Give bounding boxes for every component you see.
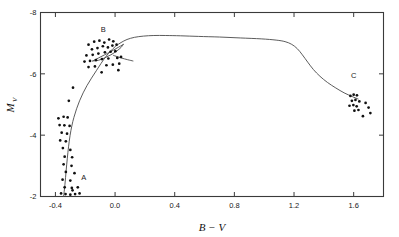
data-point [107,46,110,49]
data-point [107,57,110,60]
data-point [349,95,352,98]
data-point [352,93,355,96]
data-point [356,94,359,97]
data-point [62,115,65,118]
data-point [111,63,114,66]
y-tick-label: -2 [30,192,37,201]
data-point [66,132,69,135]
cluster-label-a: A [81,173,86,182]
data-point [63,186,66,189]
data-point [104,51,107,54]
cluster-label-b: B [101,25,106,34]
y-axis-tick-labels: -8-6-4-2 [30,8,37,201]
data-point [352,104,355,107]
y-tick-label: -4 [30,131,37,140]
data-point [71,189,74,192]
data-point [62,163,65,166]
data-point [85,54,88,57]
data-point [64,193,67,196]
data-point [362,115,365,118]
data-point [74,193,77,196]
data-point [97,52,100,55]
data-point [348,104,351,107]
y-axis-title: M [4,103,16,114]
x-tick-label: 0.8 [229,201,239,210]
data-point [72,86,75,89]
y-tick-label: -8 [30,8,37,17]
data-point [89,60,92,63]
x-tick-label: 1.2 [289,201,299,210]
data-point [358,100,361,103]
x-tick-label: 1.6 [348,201,358,210]
data-point [108,38,111,41]
data-point [357,109,360,112]
data-point [67,99,70,102]
data-point [87,66,90,69]
data-point [103,41,106,44]
data-point [369,112,372,115]
data-point [73,172,76,175]
data-point [109,50,112,53]
data-point [120,56,123,59]
data-point [114,50,117,53]
data-point [59,139,62,142]
data-point [69,179,72,182]
y-axis-title-subscript: V [11,97,19,102]
data-point [115,43,118,46]
y-axis-ticks [41,13,384,197]
data-point [116,57,119,60]
x-tick-label: 0.0 [110,201,120,210]
series-cluster-c [348,93,372,117]
y-tick-label: -6 [30,70,37,79]
data-points [57,38,372,196]
data-point [60,131,63,134]
data-point [58,124,61,127]
data-point [65,171,68,174]
data-point [70,187,73,190]
data-point [93,40,96,43]
data-point [353,109,356,112]
data-point [69,193,72,196]
data-point [101,45,104,48]
data-point [100,71,103,74]
data-point [78,192,81,195]
data-point [87,43,90,46]
data-point [83,60,86,63]
data-point [118,62,121,65]
data-point [355,105,358,108]
x-tick-label: -0.4 [49,201,62,210]
data-point [351,99,354,102]
data-point [68,125,71,128]
data-point [63,155,66,158]
data-point [66,116,69,119]
data-point [117,69,120,72]
data-point [71,156,74,159]
data-point [57,117,60,120]
data-point [94,65,97,68]
data-point [76,186,79,189]
data-point [61,178,64,181]
data-point [69,149,72,152]
figure-container: -0.40.00.40.81.21.6 -8-6-4-2 ABC B − V M… [0,0,399,237]
y-axis-title-group: M V [4,97,19,114]
data-point [62,147,65,150]
data-point [111,44,114,47]
data-point [65,140,68,143]
data-point [364,102,367,105]
data-point [112,40,115,43]
data-point [98,39,101,42]
x-tick-label: 0.4 [169,201,179,210]
data-point [91,53,94,56]
plot-frame [41,13,384,197]
data-point [96,47,99,50]
data-point [91,48,94,51]
data-point [63,124,66,127]
color-magnitude-diagram: -0.40.00.40.81.21.6 -8-6-4-2 ABC B − V M… [0,0,399,237]
data-point [70,164,73,167]
data-point [95,59,98,62]
data-point [101,58,104,61]
x-axis-tick-labels: -0.40.00.40.81.21.6 [49,201,359,210]
cluster-annotations: ABC [81,25,357,181]
data-point [60,192,63,195]
data-point [367,106,370,109]
